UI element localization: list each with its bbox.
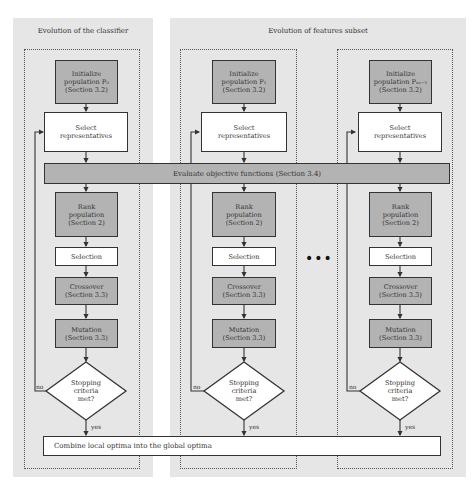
mutation-box: Mutation (Section 3.3) — [212, 319, 276, 348]
yes-label: yes — [249, 423, 259, 430]
no-label: no — [36, 383, 43, 390]
no-label: no — [193, 383, 200, 390]
crossover-box: Crossover (Section 3.3) — [212, 277, 276, 305]
rank-population-box: Rank population (Section 2) — [55, 192, 118, 237]
combine-label: Combine local optima into the global opt… — [54, 442, 212, 450]
init-population-pns-1-box: Initializepopulation Pₙₛ₋₁(Section 3.2) — [369, 60, 432, 104]
selection-box: Selection — [369, 247, 432, 266]
init-population-p0-box: Initializepopulation P₀(Section 3.2) — [55, 60, 118, 104]
select-representatives-box: Select representatives — [358, 112, 442, 152]
crossover-box: Crossover (Section 3.3) — [369, 277, 432, 305]
stopping-criteria-label: Stopping criteria met? — [224, 379, 264, 403]
select-representatives-box: Select representatives — [201, 112, 287, 152]
selection-box: Selection — [212, 247, 276, 266]
init-label: Initializepopulation P₀(Section 3.2) — [64, 70, 109, 94]
evaluate-label: Evaluate objective functions (Section 3.… — [173, 170, 321, 178]
mutation-box: Mutation (Section 3.3) — [55, 319, 118, 348]
selection-box: Selection — [55, 247, 118, 266]
yes-label: yes — [405, 423, 415, 430]
combine-local-optima-bar: Combine local optima into the global opt… — [43, 436, 441, 456]
crossover-box: Crossover (Section 3.3) — [55, 277, 118, 305]
init-label: Initializepopulation Pₙₛ₋₁(Section 3.2) — [374, 70, 427, 94]
mutation-box: Mutation (Section 3.3) — [369, 319, 432, 348]
init-population-p1-box: Initializepopulation P₁(Section 3.2) — [212, 60, 276, 104]
evaluate-objective-functions-bar: Evaluate objective functions (Section 3.… — [44, 163, 450, 184]
no-label: no — [349, 383, 356, 390]
rank-population-box: Rank population (Section 2) — [212, 192, 276, 237]
select-representatives-box: Select representatives — [44, 112, 128, 152]
stopping-criteria-label: Stopping criteria met? — [380, 379, 420, 403]
yes-label: yes — [91, 423, 101, 430]
rank-population-box: Rank population (Section 2) — [369, 192, 432, 237]
init-label: Initializepopulation P₁(Section 3.2) — [222, 70, 267, 94]
stopping-criteria-label: Stopping criteria met? — [66, 379, 106, 403]
